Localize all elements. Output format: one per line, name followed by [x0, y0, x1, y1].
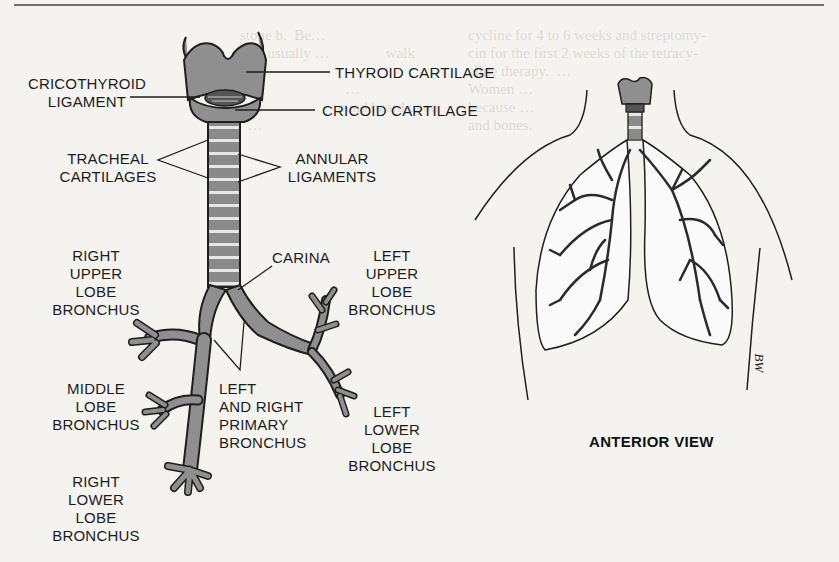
dictionary-page: stone b. Be… fon, usually … walk … b… … … [0, 0, 839, 562]
label-cricothyroid-ligament: CRICOTHYROID LIGAMENT [24, 75, 150, 111]
label-cricoid-cartilage: CRICOID CARTILAGE [322, 102, 478, 120]
label-tracheal-cartilages: TRACHEAL CARTILAGES [58, 150, 158, 186]
label-left-and-right-primary-bronchus: LEFT AND RIGHT PRIMARY BRONCHUS [219, 380, 306, 452]
right-lung [536, 140, 631, 350]
label-right-lower-lobe-bronchus: RIGHT LOWER LOBE BRONCHUS [50, 473, 142, 545]
label-right-upper-lobe-bronchus: RIGHT UPPER LOBE BRONCHUS [50, 247, 142, 319]
label-carina: CARINA [272, 249, 330, 267]
anatomy-diagram: THYROID CARTILAGE CRICOTHYROID LIGAMENT … [0, 0, 839, 562]
larynx-group [183, 32, 266, 122]
label-middle-lobe-bronchus: MIDDLE LOBE BRONCHUS [50, 380, 142, 434]
artist-signature: BW [751, 354, 767, 373]
caption-anterior-view: ANTERIOR VIEW [589, 433, 714, 450]
label-left-upper-lobe-bronchus: LEFT UPPER LOBE BRONCHUS [346, 247, 438, 319]
trachea [208, 122, 240, 287]
label-left-lower-lobe-bronchus: LEFT LOWER LOBE BRONCHUS [346, 403, 438, 475]
label-annular-ligaments: ANNULAR LIGAMENTS [282, 150, 382, 186]
label-thyroid-cartilage: THYROID CARTILAGE [335, 64, 495, 82]
